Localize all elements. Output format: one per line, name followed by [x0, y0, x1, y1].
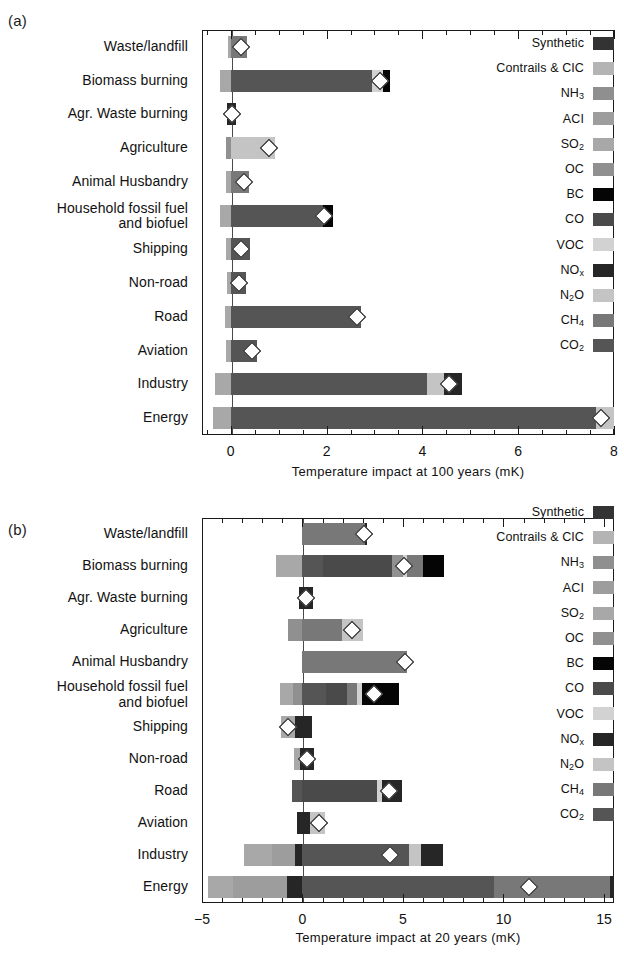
xaxis-tick	[423, 898, 424, 903]
bar-segment	[293, 683, 302, 705]
xaxis-tick	[398, 430, 399, 435]
legend-label: N2O	[560, 757, 584, 772]
legend-row: NOx	[560, 263, 614, 278]
category-label: Energy	[0, 411, 196, 426]
legend-swatch	[593, 238, 614, 251]
xaxis-tick	[374, 430, 375, 435]
xaxis-tick	[262, 898, 263, 903]
xtick-label: 10	[496, 911, 512, 927]
bar-segment	[231, 205, 323, 227]
legend-label: CO	[565, 212, 584, 226]
bar-segment	[280, 683, 293, 705]
legend-label: CO2	[560, 338, 584, 353]
bar-segment	[220, 205, 231, 227]
xaxis-tick	[279, 430, 280, 435]
category-label: Biomass burning	[0, 559, 196, 574]
legend-swatch	[593, 37, 614, 50]
bar-segment	[302, 683, 325, 705]
legend-row: CO	[565, 212, 614, 226]
legend-swatch	[593, 62, 614, 75]
bar-segment	[297, 812, 309, 834]
legend-label: OC	[565, 631, 584, 645]
legend-row: NH3	[561, 555, 614, 570]
bar-row	[202, 407, 614, 429]
panel-b-legend: SyntheticContrails & CICNH3ACISO2OCBCCOV…	[380, 505, 614, 835]
xaxis-tick-top	[327, 30, 328, 39]
category-label: Household fossil fuel and biofuel	[0, 679, 196, 709]
bar-segment	[302, 555, 322, 577]
category-label: Household fossil fuel and biofuel	[0, 201, 196, 231]
xaxis-tick	[584, 898, 585, 903]
xtick-label: 15	[596, 911, 612, 927]
category-label: Animal Husbandry	[0, 655, 196, 670]
legend-swatch	[593, 213, 614, 226]
bar-segment	[287, 876, 302, 898]
panel-a-legend: SyntheticContrails & CICNH3ACISO2OCBCCOV…	[380, 36, 614, 366]
legend-swatch	[593, 581, 614, 594]
bar-segment	[231, 373, 427, 395]
legend-label: SO2	[561, 137, 584, 152]
category-label: Shipping	[0, 719, 196, 734]
bar-segment	[231, 306, 361, 328]
legend-row: CO2	[560, 807, 614, 822]
category-label: Aviation	[0, 815, 196, 830]
xtick-label: −5	[194, 911, 210, 927]
xaxis-tick-top	[343, 518, 344, 523]
xaxis-tick	[231, 426, 232, 435]
legend-swatch	[593, 264, 614, 277]
category-label: Agr. Waste burning	[0, 107, 196, 122]
legend-label: NOx	[560, 732, 584, 747]
legend-row: CH4	[561, 313, 614, 328]
xaxis-tick	[303, 430, 304, 435]
legend-swatch	[593, 607, 614, 620]
legend-swatch	[593, 531, 614, 544]
xtick-label: 4	[418, 443, 426, 459]
xaxis-tick	[282, 898, 283, 903]
legend-label: Synthetic	[532, 505, 584, 519]
category-label: Biomass burning	[0, 73, 196, 88]
xaxis-tick-top	[207, 30, 208, 35]
legend-swatch	[593, 506, 614, 519]
legend-label: NOx	[560, 263, 584, 278]
xaxis-tick	[446, 430, 447, 435]
legend-swatch	[593, 758, 614, 771]
legend-label: ACI	[563, 581, 584, 595]
category-label: Non-road	[0, 276, 196, 291]
legend-swatch	[593, 632, 614, 645]
legend-row: N2O	[560, 757, 614, 772]
xaxis-tick	[383, 898, 384, 903]
xaxis-tick	[524, 898, 525, 903]
bar-segment	[292, 780, 302, 802]
xaxis-tick	[604, 894, 605, 903]
legend-row: Synthetic	[532, 505, 614, 519]
legend-row: VOC	[557, 707, 614, 721]
category-label: Agriculture	[0, 623, 196, 638]
xaxis-tick	[566, 430, 567, 435]
xaxis-tick-top	[446, 30, 447, 35]
legend-swatch	[593, 808, 614, 821]
legend-label: VOC	[557, 238, 584, 252]
legend-swatch	[593, 707, 614, 720]
xaxis-tick-top	[222, 518, 223, 523]
xaxis-tick	[302, 894, 303, 903]
legend-row: Synthetic	[532, 36, 614, 50]
legend-label: OC	[565, 162, 584, 176]
bar-segment	[272, 844, 295, 866]
legend-label: CH4	[561, 782, 584, 797]
bar-segment	[302, 619, 341, 641]
category-label: Aviation	[0, 343, 196, 358]
xaxis-tick-top	[351, 30, 352, 35]
xaxis-tick	[614, 426, 615, 435]
bar-segment	[244, 844, 272, 866]
xaxis-tick-top	[242, 518, 243, 523]
legend-swatch	[593, 112, 614, 125]
legend-label: Contrails & CIC	[496, 530, 584, 544]
legend-swatch	[593, 289, 614, 302]
xaxis-tick	[483, 898, 484, 903]
category-label: Waste/landfill	[0, 39, 196, 54]
bar-segment	[231, 407, 596, 429]
xaxis-tick-top	[303, 30, 304, 35]
xtick-label: 6	[514, 443, 522, 459]
category-label: Agr. Waste burning	[0, 591, 196, 606]
xtick-label: 0	[299, 911, 307, 927]
